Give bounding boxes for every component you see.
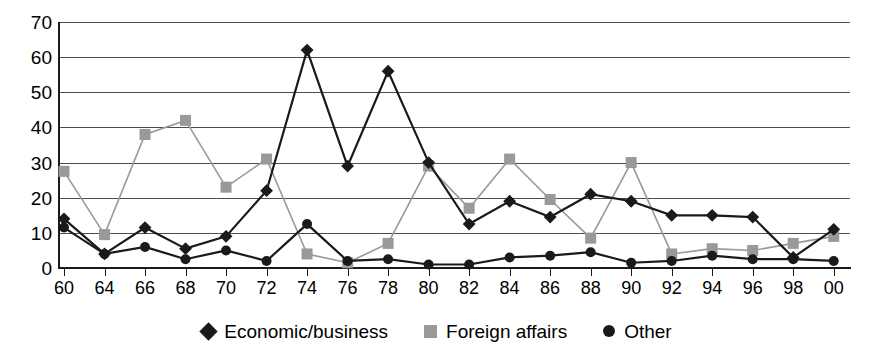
circle-marker-icon xyxy=(181,254,191,264)
circle-marker-icon xyxy=(464,259,474,269)
legend-entry-other: Other xyxy=(603,322,672,341)
circle-marker-icon xyxy=(707,251,717,261)
square-marker-icon xyxy=(99,229,110,240)
circle-marker-icon xyxy=(748,254,758,264)
circle-marker-icon xyxy=(383,254,393,264)
square-marker-icon xyxy=(261,154,272,165)
square-marker-icon xyxy=(140,129,151,140)
series-economic-business xyxy=(58,44,841,264)
circle-marker-icon xyxy=(667,256,677,266)
diamond-marker-icon xyxy=(706,209,719,222)
diamond-marker-icon xyxy=(301,44,314,57)
legend-entry-economic-business: Economic/business xyxy=(202,322,388,341)
legend-entry-foreign-affairs: Foreign affairs xyxy=(424,322,567,341)
circle-marker-icon xyxy=(221,245,231,255)
diamond-marker-icon xyxy=(139,221,152,234)
square-marker-icon xyxy=(626,157,637,168)
circle-marker-icon xyxy=(603,325,615,337)
circle-marker-icon xyxy=(343,256,353,266)
legend-label-foreign-affairs: Foreign affairs xyxy=(446,322,567,341)
diamond-marker-icon xyxy=(665,209,678,222)
diamond-marker-icon xyxy=(544,211,557,224)
square-marker-icon xyxy=(585,233,596,244)
square-marker-icon xyxy=(59,166,70,177)
diamond-marker-icon xyxy=(341,160,354,173)
circle-marker-icon xyxy=(626,258,636,268)
circle-marker-icon xyxy=(505,252,515,262)
diamond-marker-icon xyxy=(200,322,218,340)
series-line xyxy=(64,50,834,257)
circle-marker-icon xyxy=(140,242,150,252)
legend-label-economic-business: Economic/business xyxy=(224,322,388,341)
circle-marker-icon xyxy=(262,256,272,266)
circle-marker-icon xyxy=(302,219,312,229)
square-marker-icon xyxy=(424,325,437,338)
line-chart: 010203040506070 606466687072747678808284… xyxy=(0,0,874,353)
square-marker-icon xyxy=(788,238,799,249)
circle-marker-icon xyxy=(545,251,555,261)
diamond-marker-icon xyxy=(503,195,516,208)
diamond-marker-icon xyxy=(179,242,192,255)
series-layer xyxy=(0,0,874,353)
square-marker-icon xyxy=(504,154,515,165)
square-marker-icon xyxy=(383,238,394,249)
circle-marker-icon xyxy=(586,247,596,257)
diamond-marker-icon xyxy=(625,195,638,208)
chart-legend: Economic/business Foreign affairs Other xyxy=(0,316,874,346)
square-marker-icon xyxy=(302,248,313,259)
diamond-marker-icon xyxy=(584,188,597,201)
circle-marker-icon xyxy=(829,256,839,266)
diamond-marker-icon xyxy=(382,65,395,78)
legend-label-other: Other xyxy=(624,322,672,341)
square-marker-icon xyxy=(221,182,232,193)
square-marker-icon xyxy=(180,115,191,126)
square-marker-icon xyxy=(464,203,475,214)
diamond-marker-icon xyxy=(463,218,476,231)
circle-marker-icon xyxy=(424,259,434,269)
square-marker-icon xyxy=(545,194,556,205)
